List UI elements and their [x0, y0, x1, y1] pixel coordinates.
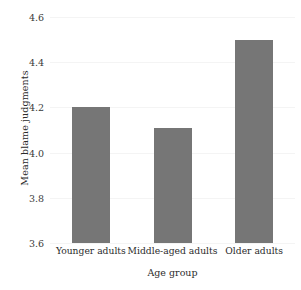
y-axis-tick-label: 4.2 [0, 102, 44, 113]
x-axis-tick-labels: Younger adultsMiddle-aged adultsOlder ad… [50, 245, 295, 261]
gridline [50, 17, 295, 18]
y-axis-tick-label: 3.8 [0, 192, 44, 203]
bar [154, 128, 192, 243]
plot-area [50, 17, 295, 243]
x-axis-tick-label: Middle-aged adults [128, 245, 218, 256]
gridline [50, 243, 295, 244]
x-axis-tick-label: Older adults [225, 245, 283, 256]
x-axis-title: Age group [50, 267, 295, 278]
y-axis-tick-label: 4.6 [0, 12, 44, 23]
y-axis-tick-label: 4.0 [0, 147, 44, 158]
bar [72, 107, 110, 243]
y-axis-tick-label: 4.4 [0, 57, 44, 68]
bar-chart-figure: Mean blame judgments 3.63.84.04.24.44.6 … [0, 0, 301, 290]
y-axis-tick-labels: 3.63.84.04.24.44.6 [0, 0, 46, 290]
bar [235, 40, 273, 243]
x-axis-tick-label: Younger adults [56, 245, 126, 256]
y-axis-tick-label: 3.6 [0, 238, 44, 249]
